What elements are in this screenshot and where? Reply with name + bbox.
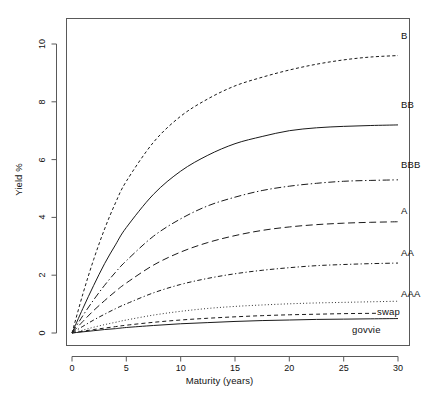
plot-canvas xyxy=(0,0,439,414)
y-tick-label-2: 2 xyxy=(37,273,47,278)
data-curves xyxy=(72,56,398,333)
curve-aa xyxy=(72,263,398,333)
series-label-b: B xyxy=(401,30,408,41)
x-tick-label-5: 5 xyxy=(124,363,129,373)
series-label-bbb: BBB xyxy=(401,159,421,170)
x-tick-label-25: 25 xyxy=(339,363,349,373)
plot-frame xyxy=(67,19,410,346)
series-label-swap: swap xyxy=(376,306,401,317)
series-label-bb: BB xyxy=(401,99,414,110)
y-tick-label-6: 6 xyxy=(37,157,47,162)
series-label-a: A xyxy=(401,205,408,216)
curve-bbb xyxy=(72,180,398,333)
y-tick-label-0: 0 xyxy=(37,330,47,335)
x-axis xyxy=(72,357,398,362)
y-axis xyxy=(52,44,57,333)
series-label-aa: AA xyxy=(401,247,414,258)
x-tick-label-20: 20 xyxy=(284,363,294,373)
series-label-govvie: govvie xyxy=(352,324,381,335)
y-tick-label-8: 8 xyxy=(37,99,47,104)
y-axis-title: Yield % xyxy=(13,140,24,220)
yield-curve-figure: 0 5 10 15 20 25 30 0 2 4 6 8 10 Maturity… xyxy=(0,0,439,414)
series-label-aaa: AAA xyxy=(401,288,421,299)
curve-a xyxy=(72,222,398,333)
x-tick-label-30: 30 xyxy=(393,363,403,373)
x-tick-label-10: 10 xyxy=(176,363,186,373)
y-tick-label-10: 10 xyxy=(37,39,47,49)
x-tick-label-0: 0 xyxy=(69,363,74,373)
curve-bb xyxy=(72,125,398,333)
x-axis-title: Maturity (years) xyxy=(0,375,439,386)
curve-swap xyxy=(72,313,398,333)
curve-b xyxy=(72,56,398,333)
x-tick-label-15: 15 xyxy=(230,363,240,373)
y-tick-label-4: 4 xyxy=(37,215,47,220)
